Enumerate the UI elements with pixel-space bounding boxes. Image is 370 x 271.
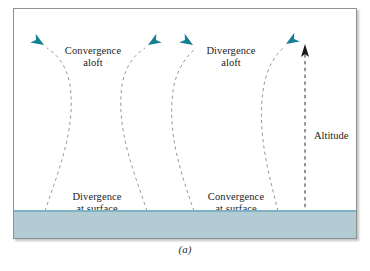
figure-container: Convergence aloft Divergence aloft Diver… (0, 0, 370, 271)
figure-caption: (a) (0, 243, 370, 255)
label-divergence-aloft: Divergence aloft (188, 45, 274, 68)
right-cell-arrow-top-right-icon (283, 33, 300, 49)
diagram-panel: Convergence aloft Divergence aloft Diver… (13, 8, 357, 239)
altitude-axis-group (301, 44, 309, 214)
right-cell-left-streamline (172, 48, 196, 211)
left-cell-left-streamline (45, 48, 71, 211)
left-cell-right-streamline (121, 48, 147, 211)
label-convergence-aloft: Convergence aloft (50, 45, 136, 68)
right-cell-right-streamline (261, 48, 283, 211)
left-cell-arrow-top-left-icon (30, 34, 47, 50)
label-altitude: Altitude (314, 130, 348, 141)
surface-band (14, 210, 356, 238)
left-cell-arrow-top-right-icon (145, 34, 162, 50)
